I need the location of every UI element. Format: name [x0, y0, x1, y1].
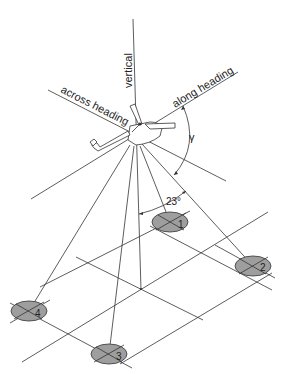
svg-text:1: 1	[178, 219, 184, 230]
svg-text:2: 2	[260, 262, 266, 273]
footprint-4: 4	[11, 301, 47, 321]
footprint-1: 1	[152, 212, 188, 232]
gamma-arc	[174, 106, 190, 175]
helicopter-beam-geometry-diagram: γ 23° 1 2 3 4 vertical	[0, 0, 282, 374]
ground-grid	[10, 211, 275, 368]
across-heading-label: across heading	[59, 83, 131, 128]
along-heading-label: along heading	[170, 64, 235, 110]
vertical-label: vertical	[122, 53, 134, 88]
gamma-label: γ	[189, 131, 195, 143]
beams	[29, 144, 253, 354]
beam-1	[140, 146, 170, 222]
vertical-axis	[133, 19, 141, 290]
beam-2	[142, 144, 253, 266]
svg-text:4: 4	[35, 308, 41, 319]
beam-4	[29, 145, 130, 311]
footprint-2: 2	[235, 256, 271, 276]
svg-text:3: 3	[116, 351, 122, 362]
angle-label: 23°	[166, 196, 181, 207]
footprint-3: 3	[91, 344, 127, 364]
